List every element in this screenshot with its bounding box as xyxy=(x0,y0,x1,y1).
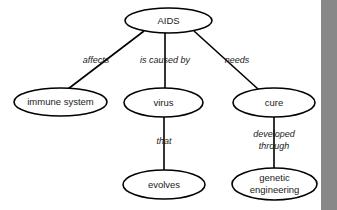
diagram-canvas: AIDS immune system virus cure evolves ge… xyxy=(0,0,337,210)
node-label-cure: cure xyxy=(265,97,283,108)
edge-label-that: that xyxy=(156,136,172,146)
node-label-genetic-engineering-line2: engineering xyxy=(250,184,300,195)
node-label-evolves: evolves xyxy=(148,179,180,190)
edge-label-needs: needs xyxy=(225,55,250,65)
node-label-virus: virus xyxy=(153,97,173,108)
scrollbar-gutter[interactable] xyxy=(321,0,337,210)
node-label-genetic-engineering-line1: genetic xyxy=(259,172,290,183)
edge-label-affects: affects xyxy=(83,55,110,65)
edge-label-is-caused-by: is caused by xyxy=(140,55,191,65)
edge-label-developed-through-line1: developed xyxy=(253,129,296,139)
edge-label-developed-through-line2: through xyxy=(259,141,290,151)
node-label-aids: AIDS xyxy=(157,15,179,26)
node-label-immune-system: immune system xyxy=(27,96,94,107)
concept-map: AIDS immune system virus cure evolves ge… xyxy=(0,0,337,210)
